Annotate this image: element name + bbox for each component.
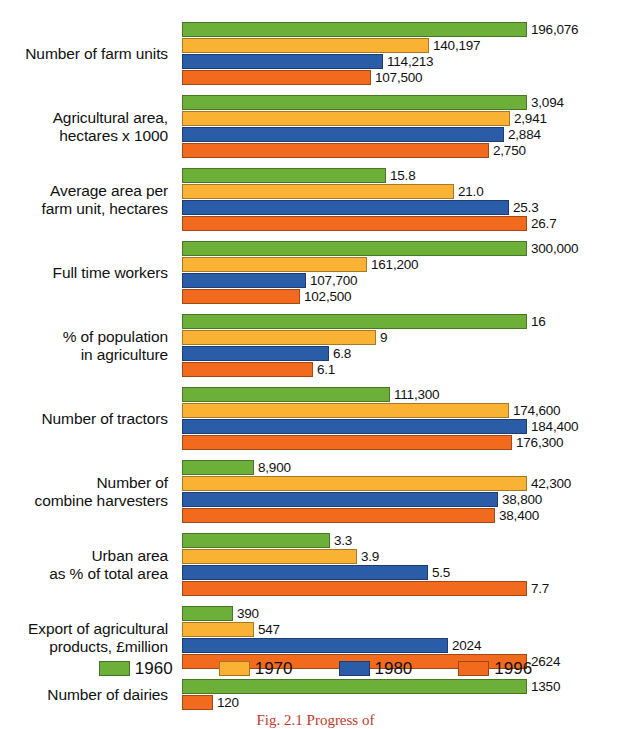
bar-group: 196,076140,197114,213107,500 (182, 22, 617, 85)
bar-line: 7.7 (182, 581, 617, 596)
bar-group: 300,000161,200107,700102,500 (182, 241, 617, 304)
bar-1980[interactable] (182, 419, 527, 434)
bar-1996[interactable] (182, 216, 527, 231)
bar-1970[interactable] (182, 38, 429, 53)
legend-item-1996[interactable]: 1996 (458, 660, 532, 677)
bar-line: 547 (182, 622, 617, 637)
legend-swatch-icon (99, 661, 130, 676)
bar-value-label: 42,300 (531, 476, 571, 491)
bar-1996[interactable] (182, 695, 213, 710)
chart-group-row: Number of dairies1350120 (0, 679, 631, 710)
bar-value-label: 107,700 (310, 273, 357, 288)
bar-1960[interactable] (182, 241, 527, 256)
bar-1960[interactable] (182, 460, 254, 475)
bar-1970[interactable] (182, 111, 510, 126)
bar-1980[interactable] (182, 200, 509, 215)
bar-1980[interactable] (182, 54, 383, 69)
bar-1970[interactable] (182, 184, 454, 199)
bar-1980[interactable] (182, 492, 498, 507)
legend-item-1970[interactable]: 1970 (219, 660, 293, 677)
bar-line: 25.3 (182, 200, 617, 215)
legend-label: 1980 (375, 660, 413, 677)
bar-value-label: 107,500 (375, 70, 422, 85)
bar-value-label: 547 (258, 622, 280, 637)
bar-line: 16 (182, 314, 617, 329)
bar-1996[interactable] (182, 289, 300, 304)
bar-1960[interactable] (182, 533, 330, 548)
bar-1996[interactable] (182, 143, 489, 158)
bar-line: 26.7 (182, 216, 617, 231)
bar-1980[interactable] (182, 638, 448, 653)
bar-1970[interactable] (182, 330, 376, 345)
chart-group-row: Urban area as % of total area3.33.95.57.… (0, 533, 631, 596)
bar-value-label: 111,300 (394, 387, 439, 402)
chart-group-row: Full time workers300,000161,200107,70010… (0, 241, 631, 304)
bar-line: 21.0 (182, 184, 617, 199)
bar-1960[interactable] (182, 22, 527, 37)
category-label: Full time workers (0, 264, 182, 282)
bar-value-label: 3.9 (361, 549, 379, 564)
chart-group-row: Number of tractors111,300174,600184,4001… (0, 387, 631, 450)
bar-1996[interactable] (182, 508, 495, 523)
category-label: Agricultural area, hectares x 1000 (0, 109, 182, 145)
bar-1996[interactable] (182, 70, 371, 85)
category-label: Export of agricultural products, £millio… (0, 620, 182, 656)
bar-line: 140,197 (182, 38, 617, 53)
bar-value-label: 9 (380, 330, 387, 345)
bar-1960[interactable] (182, 606, 233, 621)
bar-line: 3.9 (182, 549, 617, 564)
bar-group: 111,300174,600184,400176,300 (182, 387, 617, 450)
legend-label: 1960 (135, 660, 173, 677)
bar-line: 107,500 (182, 70, 617, 85)
bar-line: 300,000 (182, 241, 617, 256)
legend-label: 1996 (494, 660, 532, 677)
chart-legend: 1960197019801996 (0, 660, 631, 677)
bar-line: 38,800 (182, 492, 617, 507)
bar-value-label: 2,941 (514, 111, 547, 126)
bar-value-label: 15.8 (390, 168, 415, 183)
category-label: Number of farm units (0, 45, 182, 63)
bar-value-label: 140,197 (433, 38, 480, 53)
legend-item-1960[interactable]: 1960 (99, 660, 173, 677)
bar-1960[interactable] (182, 387, 390, 402)
bar-1970[interactable] (182, 476, 527, 491)
bar-1980[interactable] (182, 346, 329, 361)
chart-group-row: Number of combine harvesters8,90042,3003… (0, 460, 631, 523)
bar-1980[interactable] (182, 565, 428, 580)
legend-swatch-icon (339, 661, 370, 676)
bar-1996[interactable] (182, 581, 527, 596)
chart-group-row: Average area per farm unit, hectares15.8… (0, 168, 631, 231)
bar-1980[interactable] (182, 273, 306, 288)
bar-line: 5.5 (182, 565, 617, 580)
bar-line: 196,076 (182, 22, 617, 37)
category-label: Urban area as % of total area (0, 547, 182, 583)
legend-item-1980[interactable]: 1980 (339, 660, 413, 677)
bar-line: 161,200 (182, 257, 617, 272)
bar-line: 102,500 (182, 289, 617, 304)
bar-1970[interactable] (182, 403, 509, 418)
bar-group: 15.821.025.326.7 (182, 168, 617, 231)
bar-line: 184,400 (182, 419, 617, 434)
bar-value-label: 7.7 (531, 581, 549, 596)
bar-1970[interactable] (182, 257, 367, 272)
bar-value-label: 2,750 (493, 143, 526, 158)
bar-1960[interactable] (182, 168, 386, 183)
bar-1970[interactable] (182, 549, 357, 564)
bar-value-label: 8,900 (258, 460, 291, 475)
bar-1980[interactable] (182, 127, 504, 142)
bar-1996[interactable] (182, 362, 313, 377)
bar-1970[interactable] (182, 622, 254, 637)
bar-1960[interactable] (182, 95, 527, 110)
bar-value-label: 176,300 (516, 435, 563, 450)
legend-label: 1970 (255, 660, 293, 677)
bar-line: 3,094 (182, 95, 617, 110)
bar-value-label: 161,200 (371, 257, 418, 272)
legend-swatch-icon (219, 661, 250, 676)
bar-1996[interactable] (182, 435, 512, 450)
bar-1960[interactable] (182, 679, 527, 694)
bar-1960[interactable] (182, 314, 527, 329)
bar-value-label: 390 (237, 606, 259, 621)
bar-value-label: 6.8 (333, 346, 351, 361)
chart-group-row: Agricultural area, hectares x 10003,0942… (0, 95, 631, 158)
bar-line: 42,300 (182, 476, 617, 491)
